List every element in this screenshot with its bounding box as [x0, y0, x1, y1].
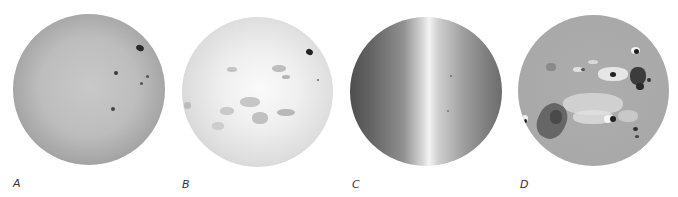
sunspot-large — [305, 48, 314, 57]
polarity-black — [633, 127, 638, 131]
polarity-black — [635, 135, 639, 138]
sunspot-large — [135, 44, 145, 53]
polarity-black — [647, 78, 651, 82]
polarity-black — [634, 49, 639, 54]
panel-label-b: B — [182, 179, 190, 190]
polarity-black — [610, 72, 616, 77]
polarity-black — [550, 110, 562, 124]
sunspot — [111, 107, 115, 111]
solar-disk-chromosphere — [182, 17, 333, 167]
panel-c: C — [340, 0, 510, 197]
active-region — [277, 109, 295, 116]
sunspot — [317, 79, 319, 81]
active-region — [227, 67, 237, 72]
polarity-black — [581, 68, 585, 71]
active-region — [282, 75, 290, 79]
active-region — [212, 122, 224, 130]
sunspot — [114, 71, 118, 75]
panel-b: B — [170, 0, 340, 197]
sunspot — [140, 82, 143, 85]
polarity-black — [546, 63, 556, 71]
polarity-black — [610, 116, 616, 122]
panel-label-c: C — [352, 179, 360, 190]
panel-a: A — [0, 0, 170, 197]
active-region — [252, 112, 268, 124]
panel-d: D — [508, 0, 678, 197]
solar-disk-dopplergram — [350, 17, 502, 166]
solar-disk-magnetogram — [518, 15, 669, 166]
polarity-black — [636, 83, 644, 90]
panel-label-d: D — [520, 179, 528, 190]
active-region — [272, 65, 286, 72]
polarity-white — [618, 110, 638, 122]
sunspot — [146, 75, 149, 78]
active-region — [240, 97, 260, 107]
solar-disk-white-light — [13, 14, 165, 165]
panel-label-a: A — [13, 178, 21, 189]
feature — [450, 75, 452, 77]
polarity-white — [588, 60, 598, 64]
active-region — [184, 102, 191, 109]
polarity-black — [524, 119, 527, 123]
feature — [447, 110, 449, 112]
active-region — [220, 107, 234, 115]
